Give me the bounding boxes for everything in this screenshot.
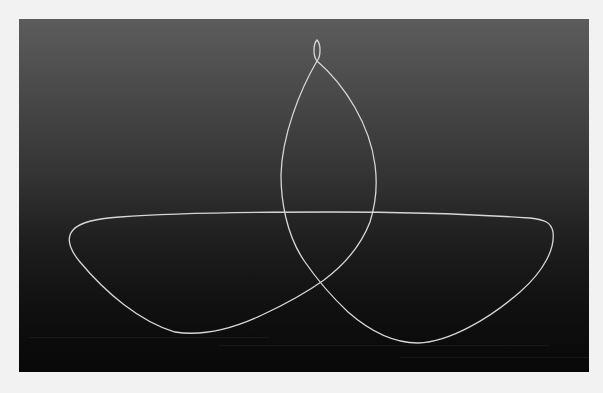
figure-panel — [19, 19, 589, 372]
image-frame — [0, 0, 603, 393]
trefoil-curve — [19, 19, 589, 372]
curve-path — [69, 40, 553, 343]
